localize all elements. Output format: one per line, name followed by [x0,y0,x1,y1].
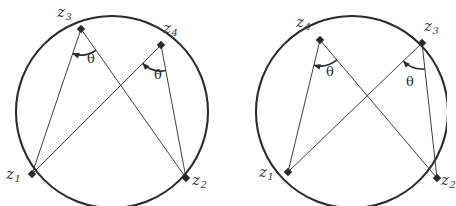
point-label-z3: z3 [57,4,72,22]
point-label-base: z [259,163,267,181]
point-label-z2: z2 [441,172,456,190]
point-label-base: z [424,17,432,35]
chord-z4-z2 [161,45,186,178]
angle-label-theta: θ [406,75,414,88]
chord-z3-z2 [81,29,186,178]
point-label-subscript: 4 [171,27,177,38]
point-label-z1: z1 [6,166,21,184]
point-label-z3: z3 [424,18,439,36]
chord-z3-z1 [288,43,422,172]
angle-label-theta: θ [87,52,95,65]
panel-right [256,16,447,206]
point-label-subscript: 1 [14,173,20,184]
angle-arrowhead [73,53,80,59]
vertex-marker-z3[interactable] [77,25,85,33]
point-label-z1: z1 [259,164,274,182]
point-label-subscript: 2 [200,179,206,190]
chord-z4-z1 [32,45,161,174]
point-label-subscript: 2 [449,179,455,190]
point-label-z4: z4 [163,20,178,38]
point-label-base: z [441,171,449,189]
point-label-base: z [6,165,14,183]
chord-z4-z2 [320,40,437,178]
point-label-base: z [192,171,200,189]
point-label-base: z [57,3,65,21]
chord-z4-z1 [288,40,320,172]
angle-arrowhead [403,61,410,68]
panel-left [16,16,208,206]
point-label-z2: z2 [192,172,207,190]
angle-label-theta: θ [326,65,334,78]
angle-arrowhead [143,63,150,70]
point-label-subscript: 1 [267,171,273,182]
circle-outline [16,16,208,206]
point-label-z4: z4 [296,14,311,32]
point-label-subscript: 3 [432,25,438,36]
point-label-subscript: 4 [304,21,310,32]
point-label-base: z [163,19,171,37]
point-label-subscript: 3 [65,11,71,22]
angle-label-theta: θ [154,68,162,81]
point-label-base: z [296,13,304,31]
